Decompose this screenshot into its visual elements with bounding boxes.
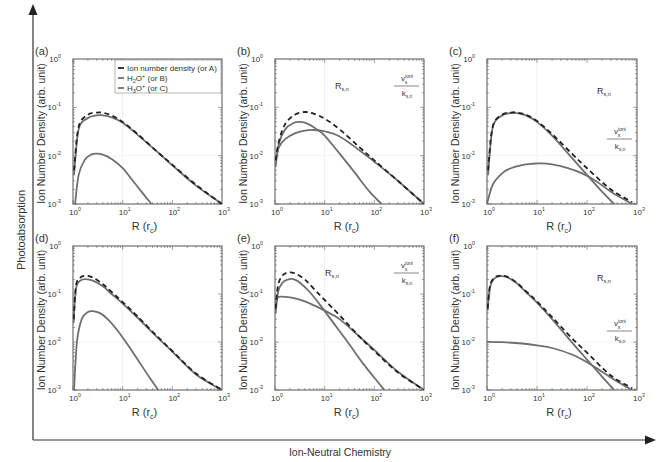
y-axis-label: Ion Number Density (arb. unit) [237, 250, 249, 391]
series-group [74, 276, 222, 390]
legend: Ion number density (or A)H2O+ (or B)H3O+… [115, 60, 221, 94]
x-tick-label: 102 [168, 392, 180, 403]
y-tick-label: 10-3 [47, 198, 61, 209]
curve-h2o- [276, 279, 385, 390]
y-tick-label: 10-1 [461, 101, 475, 112]
x-tick-label: 102 [168, 206, 180, 217]
annotation-r-sn: Rs,n [325, 268, 339, 279]
x-tick-label: 100 [271, 392, 283, 403]
y-axis-label: Ion Number Density (arb. unit) [449, 63, 461, 204]
annotations: Rs,nvionisks,n [325, 260, 419, 286]
curve-ion-number-density [74, 276, 222, 390]
panel-label: (e) [237, 232, 250, 244]
y-axis-label: Ion Number Density (arb. unit) [237, 63, 249, 204]
panel-label: (a) [35, 45, 48, 57]
curve-ion-number-density [276, 272, 424, 390]
x-axis-label: R (rc) [546, 220, 572, 234]
curve-ion-number-density-or-a- [74, 112, 222, 204]
annotation-v-over-k: vionisks,n [394, 73, 419, 99]
annotation-r-sn: Rs,n [597, 86, 611, 97]
series-group [74, 112, 222, 204]
x-tick-label: 100 [69, 206, 81, 217]
y-tick-label: 10-1 [249, 288, 263, 299]
svg-text:s: s [618, 132, 621, 138]
x-axis-label: R (rc) [334, 406, 360, 420]
series-group [276, 112, 424, 204]
x-tick-label: 101 [321, 392, 333, 403]
curve-ion-number-density [488, 276, 633, 388]
x-tick-label: 101 [533, 392, 545, 403]
curve-h3o- [487, 163, 632, 204]
y-tick-label: 10-2 [47, 150, 61, 161]
x-tick-label: 101 [119, 392, 131, 403]
plot-frame [73, 246, 222, 390]
y-tick-label: 100 [251, 240, 263, 251]
panel-label: (c) [449, 45, 462, 57]
x-tick-label: 103 [218, 392, 230, 403]
x-axis-label: R (rc) [546, 406, 572, 420]
panel-label: (f) [449, 232, 459, 244]
curve-h2o- [488, 113, 614, 204]
annotations: Rs,nvionisks,n [597, 86, 632, 152]
y-tick-label: 100 [463, 240, 475, 251]
series-group [487, 112, 632, 204]
y-tick-label: 10-2 [461, 150, 475, 161]
panel-c: (c)10010110210310-310-210-1100R (rc)Ion … [449, 45, 645, 234]
panels: (a)10010110210310-310-210-1100R (rc)Ion … [35, 45, 645, 420]
curve-h2o- [488, 276, 615, 390]
y-tick-label: 10-2 [461, 336, 475, 347]
y-tick-label: 10-1 [461, 288, 475, 299]
ticks [73, 246, 222, 390]
y-tick-label: 10-1 [47, 288, 61, 299]
curve-h3o- [74, 311, 158, 390]
x-axis-label: R (rc) [334, 220, 360, 234]
panel-a: (a)10010110210310-310-210-1100R (rc)Ion … [35, 45, 230, 234]
y-tick-label: 100 [251, 53, 263, 64]
outer-y-label: Photoabsorption [15, 190, 27, 270]
x-tick-label: 101 [119, 206, 131, 217]
x-tick-label: 102 [370, 206, 382, 217]
plot-frame [487, 246, 637, 390]
y-tick-label: 10-2 [249, 336, 263, 347]
panel-b: (b)10010110210310-310-210-1100R (rc)Ion … [237, 45, 432, 234]
y-tick-label: 10-1 [47, 101, 61, 112]
panel-e: (e)10010110210310-310-210-1100R (rc)Ion … [237, 232, 432, 420]
annotation-r-sn: Rs,n [597, 273, 611, 284]
y-tick-label: 10-3 [461, 384, 475, 395]
x-tick-label: 100 [271, 206, 283, 217]
y-axis-label: Ion Number Density (arb. unit) [449, 250, 461, 391]
x-tick-label: 102 [583, 392, 595, 403]
y-tick-label: 10-3 [249, 198, 263, 209]
figure: Ion-Neutral Chemistry Photoabsorption (a… [0, 0, 659, 462]
x-tick-label: 103 [633, 206, 645, 217]
y-arrow-icon [29, 4, 38, 15]
ticks [487, 246, 637, 390]
x-tick-label: 100 [69, 392, 81, 403]
svg-text:ks,n: ks,n [402, 276, 413, 286]
annotation-v-over-k: vionisks,n [394, 260, 419, 286]
svg-text:ks,n: ks,n [402, 89, 413, 99]
y-tick-label: 100 [49, 53, 61, 64]
legend-entry: Ion number density (or A) [127, 64, 217, 73]
y-tick-label: 10-2 [47, 336, 61, 347]
panel-label: (b) [237, 45, 250, 57]
x-tick-label: 103 [420, 392, 432, 403]
y-tick-label: 10-3 [249, 384, 263, 395]
x-tick-label: 102 [583, 206, 595, 217]
y-axis-label: Ion Number Density (arb. unit) [35, 63, 47, 204]
svg-text:s: s [405, 266, 408, 272]
curve-ion-number-density [276, 112, 424, 204]
y-tick-label: 10-3 [47, 384, 61, 395]
panel-d: (d)10010110210310-310-210-1100R (rc)Ion … [35, 232, 230, 420]
panel-label: (d) [35, 232, 48, 244]
x-axis-label: R (rc) [132, 220, 158, 234]
panel-f: (f)10010110210310-310-210-1100R (rc)Ion … [449, 232, 645, 420]
svg-text:s: s [405, 79, 408, 85]
y-tick-label: 10-3 [461, 198, 475, 209]
annotations: Rs,nvionisks,n [597, 273, 632, 344]
outer-x-label: Ion-Neutral Chemistry [289, 446, 392, 458]
y-tick-label: 10-1 [249, 101, 263, 112]
y-axis-label: Ion Number Density (arb. unit) [35, 250, 47, 391]
curve-h2o-or-b- [74, 115, 222, 204]
x-axis-label: R (rc) [132, 406, 158, 420]
